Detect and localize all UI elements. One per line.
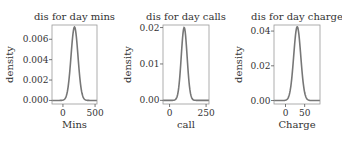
axes-frame xyxy=(52,25,97,104)
panel-title: dis for day charge xyxy=(251,11,342,22)
y-axis-label: density xyxy=(233,46,244,83)
y-tick-label: 0.00 xyxy=(250,96,270,106)
x-tick-label: 0 xyxy=(283,108,289,118)
y-tick-label: 0.04 xyxy=(250,26,270,36)
panel-day-mins: dis for day mins Mins density 05000.0000… xyxy=(4,11,115,130)
panel-title: dis for day mins xyxy=(34,11,115,22)
y-tick-label: 0.004 xyxy=(23,55,49,65)
axes-frame xyxy=(274,25,320,104)
y-tick-label: 0.02 xyxy=(139,23,159,33)
y-tick-label: 0.006 xyxy=(23,34,49,44)
panel-title: dis for day calls xyxy=(146,11,226,22)
x-tick-label: 0 xyxy=(60,108,66,118)
density-curve xyxy=(274,27,320,101)
x-tick-label: 500 xyxy=(86,108,103,118)
y-tick-label: 0.00 xyxy=(139,95,159,105)
y-axis-label: density xyxy=(4,46,15,83)
density-curve xyxy=(163,28,209,101)
x-axis-label: Charge xyxy=(278,119,315,130)
x-tick-label: 50 xyxy=(299,108,311,118)
panel-day-charge: dis for day charge Charge density 0500.0… xyxy=(233,11,342,130)
y-tick-label: 0.01 xyxy=(139,59,159,69)
y-tick-label: 0.000 xyxy=(23,95,49,105)
panel-day-calls: dis for day calls call density 02500.000… xyxy=(122,11,226,130)
x-tick-label: 250 xyxy=(197,108,214,118)
x-tick-label: 0 xyxy=(167,108,173,118)
y-tick-label: 0.02 xyxy=(250,61,270,71)
density-figure: dis for day mins Mins density 05000.0000… xyxy=(0,0,342,143)
x-axis-label: call xyxy=(177,119,195,130)
y-tick-label: 0.002 xyxy=(23,75,49,85)
x-axis-label: Mins xyxy=(62,119,87,130)
y-axis-label: density xyxy=(122,46,133,83)
density-curve xyxy=(52,27,97,100)
